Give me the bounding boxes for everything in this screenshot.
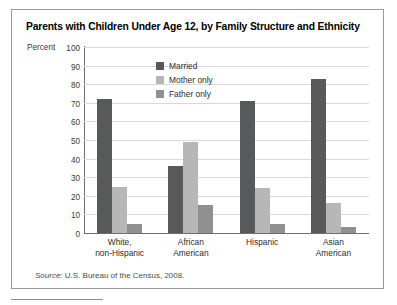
y-axis-tick-label: 60 xyxy=(58,118,80,127)
legend-swatch xyxy=(156,62,164,70)
bar xyxy=(112,187,127,234)
y-axis-tick-label: 0 xyxy=(58,230,80,239)
source-note: Source: U.S. Bureau of the Census, 2008. xyxy=(35,271,184,280)
bar-group xyxy=(311,47,356,233)
bar xyxy=(270,224,285,233)
y-axis-tick-label: 70 xyxy=(58,99,80,108)
bar xyxy=(168,166,183,233)
legend-label: Mother only xyxy=(169,75,213,85)
x-axis-tick-labels: White,non-HispanicAfricanAmericanHispani… xyxy=(84,237,369,263)
bar xyxy=(326,203,341,233)
legend-swatch xyxy=(156,90,164,98)
bar xyxy=(183,142,198,233)
source-label: Source: xyxy=(35,271,63,280)
y-axis-tick-label: 90 xyxy=(58,62,80,71)
x-axis-tick-label: White,non-Hispanic xyxy=(84,237,155,258)
y-axis-tick-label: 80 xyxy=(58,81,80,90)
y-axis-tick-labels: 1009080706050403020100 xyxy=(56,47,80,233)
y-axis-tick-label: 100 xyxy=(58,44,80,53)
gridline xyxy=(84,233,369,234)
bar xyxy=(255,188,270,233)
bar xyxy=(198,205,213,233)
bar-group xyxy=(97,47,142,233)
x-axis-tick-label: AfricanAmerican xyxy=(155,237,226,258)
legend-label: Married xyxy=(169,61,197,71)
y-axis-tick-label: 20 xyxy=(58,192,80,201)
bar-group xyxy=(240,47,285,233)
legend-item: Married xyxy=(156,59,213,72)
legend: MarriedMother onlyFather only xyxy=(156,59,213,101)
legend-label: Father only xyxy=(169,89,211,99)
source-text: U.S. Bureau of the Census, 2008. xyxy=(63,271,185,280)
bar xyxy=(341,227,356,233)
bar xyxy=(311,79,326,233)
bar xyxy=(97,99,112,233)
y-axis-title: Percent xyxy=(27,43,55,52)
y-axis-tick-label: 30 xyxy=(58,174,80,183)
plot-area xyxy=(84,47,369,233)
x-axis-tick-label: Hispanic xyxy=(227,237,298,248)
page-title: Parents with Children Under Age 12, by F… xyxy=(26,21,374,33)
legend-swatch xyxy=(156,76,164,84)
x-axis-tick-label: AsianAmerican xyxy=(298,237,369,258)
bottom-rule xyxy=(11,299,103,300)
legend-item: Mother only xyxy=(156,73,213,86)
legend-item: Father only xyxy=(156,87,213,100)
figure-frame: Parents with Children Under Age 12, by F… xyxy=(11,9,384,289)
y-axis-tick-label: 40 xyxy=(58,155,80,164)
bar xyxy=(240,101,255,233)
y-axis-tick-label: 10 xyxy=(58,211,80,220)
bar xyxy=(127,224,142,233)
y-axis-tick-label: 50 xyxy=(58,137,80,146)
